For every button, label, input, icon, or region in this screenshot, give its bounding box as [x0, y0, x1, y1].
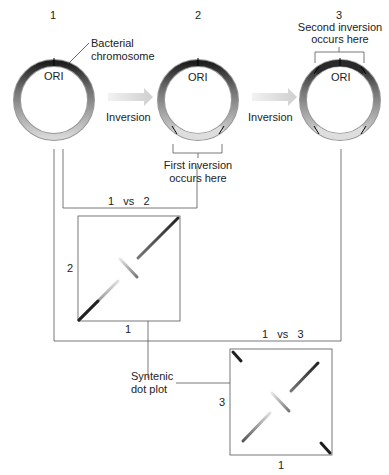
syntenic-dot-plot-label-line2: dot plot: [131, 383, 167, 395]
stage-2-number: 2: [195, 9, 201, 21]
stage-3-number: 3: [336, 9, 342, 21]
bacterial-chromosome-label-line2: chromosome: [91, 50, 155, 62]
first-inversion-label-line2: occurs here: [148, 172, 248, 184]
syntenic-dot-plot-label-line1: Syntenic: [131, 370, 173, 382]
chromosome-circle-3: [303, 58, 377, 137]
dot-plot-1-vs-3: [230, 349, 332, 455]
ori-label-3: ORI: [331, 71, 351, 83]
chromosome-pointer-line: [68, 43, 89, 64]
comparison-1-vs-2-label: 1 vs 2: [108, 195, 150, 207]
dot-plot-1-vs-2: [78, 216, 180, 321]
first-inversion-bracket: [173, 144, 222, 158]
chromosome-circle-2: [161, 58, 235, 137]
second-inversion-label-line2: occurs here: [290, 33, 389, 45]
second-inversion-label-line1: Second inversion: [290, 21, 389, 33]
ori-label-2: ORI: [188, 71, 208, 83]
inversion-label-1: Inversion: [106, 111, 151, 123]
bacterial-chromosome-label-line1: Bacterial: [91, 37, 134, 49]
comparison-1-vs-3-label: 1 vs 3: [262, 328, 304, 340]
dot-plot-1-y-axis-label: 2: [67, 262, 73, 274]
ori-label-1: ORI: [44, 70, 64, 82]
stage-1-number: 1: [50, 9, 56, 21]
dot-plot-2-x-axis-label: 1: [278, 459, 284, 471]
inversion-label-2: Inversion: [248, 111, 293, 123]
dot-plot-1-x-axis-label: 1: [125, 323, 131, 335]
arrow-2-icon: [252, 88, 297, 106]
first-inversion-label-line1: First inversion: [148, 159, 248, 171]
dot-plot-2-y-axis-label: 3: [219, 396, 225, 408]
arrow-1-icon: [108, 88, 153, 106]
